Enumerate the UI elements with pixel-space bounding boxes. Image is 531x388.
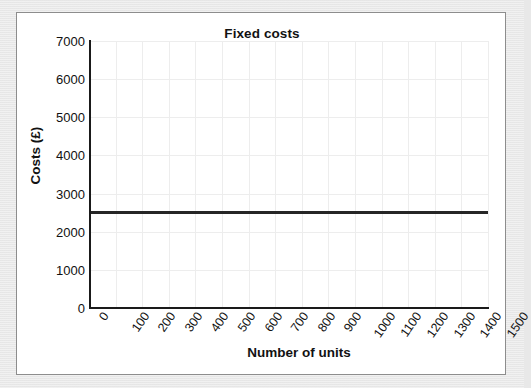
- x-tick-label: 600: [262, 310, 284, 334]
- gridline-horizontal: [89, 232, 488, 233]
- x-tick-label: 1200: [425, 310, 451, 340]
- gridline-vertical: [488, 41, 489, 308]
- gridline-vertical: [328, 41, 329, 308]
- gridline-vertical: [275, 41, 276, 308]
- x-axis-title: Number of units: [89, 345, 509, 360]
- gridline-vertical: [461, 41, 462, 308]
- gridline-horizontal: [89, 41, 488, 42]
- x-tick-label: 1300: [452, 310, 478, 340]
- gridline-vertical: [222, 41, 223, 308]
- series-line-fixed-costs: [89, 211, 488, 214]
- x-tick-label: 300: [183, 310, 205, 334]
- gridline-vertical: [408, 41, 409, 308]
- gridline-vertical: [142, 41, 143, 308]
- x-tick-label: 900: [342, 310, 364, 334]
- gridline-vertical: [382, 41, 383, 308]
- y-tick-label: 4000: [41, 149, 85, 162]
- y-tick-label: 7000: [41, 35, 85, 48]
- gridline-vertical: [249, 41, 250, 308]
- gridline-vertical: [302, 41, 303, 308]
- x-tick-label: 800: [316, 310, 338, 334]
- plot-background: [89, 41, 488, 308]
- gridline-vertical: [355, 41, 356, 308]
- x-tick-label: 500: [236, 310, 258, 334]
- gridline-vertical: [195, 41, 196, 308]
- x-tick-label: 100: [129, 310, 151, 334]
- gridline-horizontal: [89, 270, 488, 271]
- x-tick-label: 1100: [398, 310, 424, 339]
- gridline-vertical: [169, 41, 170, 308]
- gridline-vertical: [435, 41, 436, 308]
- y-tick-label: 5000: [41, 111, 85, 124]
- gridline-horizontal: [89, 194, 488, 195]
- gridline-horizontal: [89, 79, 488, 80]
- y-tick-label: 3000: [41, 188, 85, 201]
- x-tick-label: 200: [156, 310, 178, 334]
- x-tick-label: 1400: [478, 310, 504, 340]
- y-axis-tick-labels: 70006000500040003000200010000: [37, 41, 85, 308]
- gridline-horizontal: [89, 117, 488, 118]
- figure-card: Fixed costs Costs (£) Number of units 70…: [16, 12, 506, 375]
- x-tick-label: 1000: [372, 310, 398, 340]
- gridline-vertical: [116, 41, 117, 308]
- x-tick-label: 400: [209, 310, 231, 334]
- y-tick-label: 1000: [41, 264, 85, 277]
- x-axis-line: [89, 307, 489, 309]
- x-tick-label: 0: [97, 310, 111, 323]
- y-tick-label: 2000: [41, 226, 85, 239]
- chart-title: Fixed costs: [17, 26, 507, 41]
- y-axis-line: [89, 40, 91, 309]
- plot-area: [89, 41, 488, 308]
- x-axis-tick-labels: 0100200300400500600700800900100011001200…: [89, 310, 494, 346]
- gridline-horizontal: [89, 155, 488, 156]
- y-tick-label: 6000: [41, 73, 85, 86]
- x-tick-label: 700: [289, 310, 311, 334]
- y-tick-label: 0: [41, 302, 85, 315]
